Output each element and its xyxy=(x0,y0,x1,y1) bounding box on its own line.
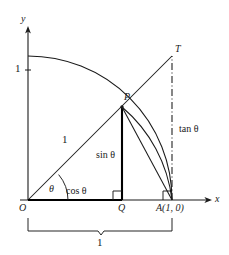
radius-length-label: 1 xyxy=(62,134,68,145)
cos-theta-label: cos θ xyxy=(66,186,87,196)
angle-theta-label: θ xyxy=(49,184,54,194)
sin-theta-label: sin θ xyxy=(96,150,115,160)
brace-length-label: 1 xyxy=(97,237,103,248)
point-marker-p xyxy=(120,105,123,108)
measure-brace xyxy=(28,218,172,235)
axes-group xyxy=(20,26,212,203)
ray-op-to-t xyxy=(28,56,172,200)
point-label-a: A(1, 0) xyxy=(156,203,184,213)
trig-unit-circle-figure: y x 1 O P Q T A(1, 0) 1 θ cos θ sin θ ta… xyxy=(0,0,229,255)
right-angle-mark-q xyxy=(113,191,122,200)
point-label-o: O xyxy=(19,203,26,213)
point-label-p: P xyxy=(124,92,130,102)
tan-theta-label: tan θ xyxy=(179,124,199,134)
y-axis-label: y xyxy=(21,14,25,24)
point-label-t: T xyxy=(175,44,181,54)
x-axis-label: x xyxy=(215,194,219,204)
point-label-q: Q xyxy=(118,203,125,213)
y-unit-tick-label: 1 xyxy=(15,63,21,74)
brace-center-notch xyxy=(98,231,104,235)
